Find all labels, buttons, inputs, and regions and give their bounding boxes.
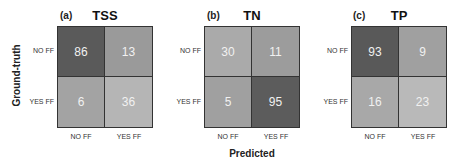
col-label: YES FF xyxy=(252,133,300,140)
row-label: NO FF xyxy=(161,47,201,54)
matrix-cell: 6 xyxy=(58,77,105,127)
row-label: YES FF xyxy=(161,98,201,105)
matrix-cell: 23 xyxy=(399,77,446,127)
col-label: NO FF xyxy=(57,133,105,140)
matrix-cell: 11 xyxy=(252,27,299,77)
confusion-matrix: 30 11 5 95 xyxy=(204,26,300,128)
matrix-cell: 95 xyxy=(252,77,299,127)
matrix-cell: 16 xyxy=(352,77,399,127)
col-label: NO FF xyxy=(351,133,399,140)
panel-title: TP xyxy=(351,8,447,23)
col-label: NO FF xyxy=(204,133,252,140)
matrix-cell: 9 xyxy=(399,27,446,77)
panel-title: TN xyxy=(204,8,300,23)
confusion-matrix: 93 9 16 23 xyxy=(351,26,447,128)
matrix-cell: 86 xyxy=(58,27,105,77)
col-label: YES FF xyxy=(399,133,447,140)
matrix-cell: 36 xyxy=(105,77,152,127)
row-label: NO FF xyxy=(308,47,348,54)
confusion-matrix: 86 13 6 36 xyxy=(57,26,153,128)
matrix-cell: 93 xyxy=(352,27,399,77)
row-label: NO FF xyxy=(14,47,54,54)
panel-title: TSS xyxy=(57,8,153,23)
row-label: YES FF xyxy=(14,98,54,105)
row-label: YES FF xyxy=(308,98,348,105)
matrix-cell: 13 xyxy=(105,27,152,77)
matrix-cell: 30 xyxy=(205,27,252,77)
col-label: YES FF xyxy=(105,133,153,140)
matrix-cell: 5 xyxy=(205,77,252,127)
x-axis-label: Predicted xyxy=(204,148,300,159)
